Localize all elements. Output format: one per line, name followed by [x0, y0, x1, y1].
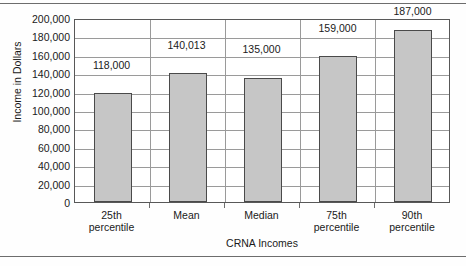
x-category-label-25th-percentile: 25th percentile: [74, 209, 149, 233]
x-axis-tick: [149, 203, 150, 208]
bar-value-label: 135,000: [223, 44, 300, 55]
bar-value-label: 187,000: [374, 6, 451, 17]
bar-25th-percentile[interactable]: [94, 93, 132, 202]
x-category-label-90th-percentile: 90th percentile: [374, 209, 450, 233]
bar-value-label: 159,000: [299, 23, 376, 34]
bar-median[interactable]: [244, 78, 282, 202]
x-category-label-median: Median: [224, 209, 299, 221]
bar-value-label: 118,000: [73, 60, 150, 71]
x-category-label-mean: Mean: [149, 209, 224, 221]
y-axis-title: Income in Dollars: [11, 34, 23, 130]
bar-mean[interactable]: [169, 73, 207, 202]
bar-90th-percentile[interactable]: [394, 30, 432, 202]
y-tick-label: 20,000: [4, 180, 70, 191]
y-tick-label: 200,000: [4, 14, 70, 25]
bar-75th-percentile[interactable]: [319, 56, 357, 202]
x-axis-tick: [224, 203, 225, 208]
x-axis-tick: [374, 203, 375, 208]
x-category-label-75th-percentile: 75th percentile: [299, 209, 374, 233]
y-tick-label: 40,000: [4, 161, 70, 172]
x-axis-tick: [299, 203, 300, 208]
bar-value-label: 140,013: [148, 40, 225, 51]
y-tick-label: 0: [4, 198, 70, 209]
figure-page: 200,000 180,000 160,000 140,000 120,000 …: [0, 0, 466, 266]
bar-chart: 200,000 180,000 160,000 140,000 120,000 …: [0, 0, 466, 266]
y-tick-label: 60,000: [4, 143, 70, 154]
x-axis-title: CRNA Incomes: [74, 237, 450, 249]
